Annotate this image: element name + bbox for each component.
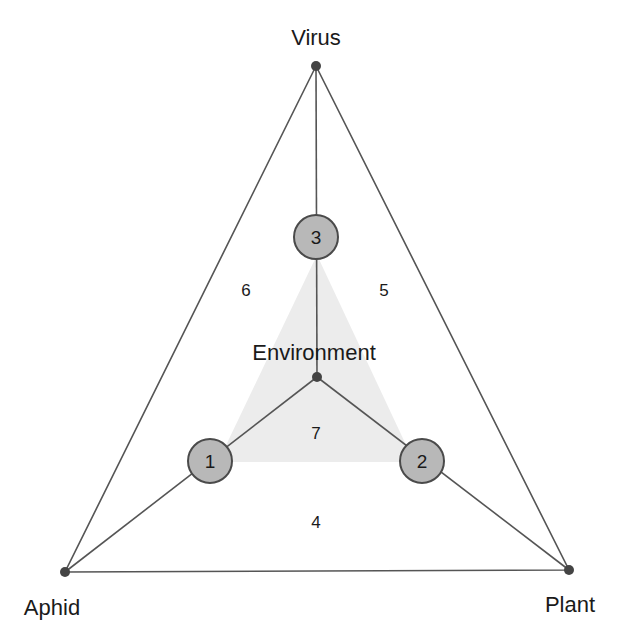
environment-vertex-dot [312,372,322,382]
node-1-label: 1 [205,451,216,472]
virus-vertex-dot [311,61,321,71]
region-6-label: 6 [241,281,250,300]
region-4-label: 4 [311,513,320,532]
aphid-label: Aphid [24,595,80,620]
aphid-to-environment-edge [65,377,317,572]
region-5-label: 5 [379,281,388,300]
virus-label: Virus [291,25,341,50]
plant-vertex-dot [564,565,574,575]
region-7-label: 7 [311,424,320,443]
plant-label: Plant [545,592,595,617]
aphid-vertex-dot [60,567,70,577]
node-1: 1 [188,439,232,483]
node-3-label: 3 [311,227,322,248]
environment-label: Environment [252,340,376,365]
plant-to-environment-edge [317,377,569,570]
node-3: 3 [294,215,338,259]
disease-triangle-diagram: 1 2 3 4 5 6 7 Virus Aphid Plant Environm… [0,0,626,643]
node-2-label: 2 [417,451,428,472]
node-2: 2 [400,439,444,483]
